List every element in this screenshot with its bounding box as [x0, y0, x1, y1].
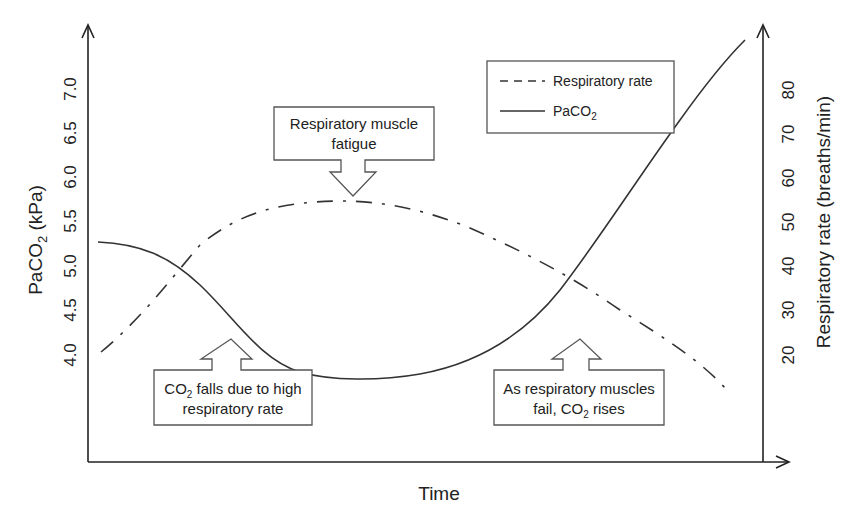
right-tick-label: 40	[779, 257, 798, 276]
left-tick-label: 4.5	[61, 298, 80, 322]
left-axis-title: PaCO2 (kPa)	[25, 185, 50, 295]
callout-co2-rises: As respiratory muscles fail, CO2 rises	[494, 339, 664, 425]
left-tick-label: 5.0	[61, 254, 80, 278]
left-axis-title-subscript: 2	[35, 236, 50, 243]
left-tick-labels: 4.0 4.5 5.0 5.5 6.0 6.5 7.0	[61, 77, 80, 367]
callout-co2-falls-co: CO	[164, 380, 187, 397]
callout-co2-rises-line1: As respiratory muscles	[503, 380, 655, 397]
chart-canvas: 4.0 4.5 5.0 5.5 6.0 6.5 7.0 PaCO2 (kPa) …	[0, 0, 852, 526]
left-tick-label: 4.0	[61, 343, 80, 367]
callout-co2-falls-line2: respiratory rate	[183, 400, 284, 417]
callout-co2-falls: CO2 falls due to high respiratory rate	[154, 339, 312, 425]
legend-paco2-subscript: 2	[591, 111, 597, 122]
legend-box	[487, 61, 674, 133]
callout-fatigue-line2: fatigue	[331, 135, 376, 152]
x-axis-title: Time	[418, 483, 460, 504]
left-axis-title-unit: (kPa)	[25, 185, 46, 236]
callout-co2-rises-main: fail, CO	[533, 400, 583, 417]
right-tick-label: 30	[779, 301, 798, 320]
left-tick-label: 6.5	[61, 121, 80, 145]
callout-fatigue: Respiratory muscle fatigue	[274, 107, 434, 196]
left-tick-label: 5.5	[61, 209, 80, 233]
callout-fatigue-line1: Respiratory muscle	[290, 115, 418, 132]
callout-co2-rises-rest: rises	[589, 400, 625, 417]
right-tick-label: 20	[779, 346, 798, 365]
left-tick-label: 6.0	[61, 165, 80, 189]
right-tick-labels: 20 30 40 50 60 70 80	[779, 81, 798, 365]
legend: Respiratory rate PaCO2	[487, 61, 674, 133]
right-tick-label: 70	[779, 125, 798, 144]
respiratory-rate-line	[101, 201, 725, 388]
right-tick-label: 80	[779, 81, 798, 100]
right-axis-title: Respiratory rate (breaths/min)	[813, 96, 834, 348]
left-tick-label: 7.0	[61, 77, 80, 101]
legend-label-respiratory-rate: Respiratory rate	[553, 73, 653, 89]
right-tick-label: 50	[779, 213, 798, 232]
right-tick-label: 60	[779, 169, 798, 188]
callout-co2-falls-rest: falls due to high	[192, 380, 301, 397]
legend-paco2-main: PaCO	[553, 103, 591, 119]
left-axis-title-main: PaCO	[25, 243, 46, 295]
